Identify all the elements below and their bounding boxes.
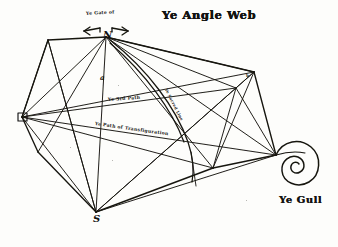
gull-spiral-tail	[276, 152, 305, 155]
gate-arrow-marks	[84, 27, 128, 35]
gull-spiral	[276, 142, 319, 185]
paper-speck	[118, 85, 119, 86]
diagram-page: Ye Angle Web Ye Gate of N S a b Ye 3rd P…	[0, 0, 338, 247]
chord-web	[22, 37, 276, 212]
hull-outline	[22, 37, 276, 212]
angle-web-drawing	[0, 0, 338, 247]
paper-speck	[246, 200, 247, 201]
curved-sweep	[110, 40, 193, 182]
